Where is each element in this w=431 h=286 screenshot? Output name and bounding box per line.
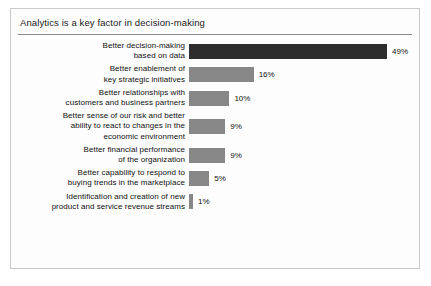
bar-row: Better capability to respond tobuying tr… (11, 168, 421, 188)
bar-category-label: Identification and creation of newproduc… (11, 192, 189, 212)
bar-track: 1% (189, 194, 421, 209)
bar-fill (189, 67, 254, 82)
bar-track: 5% (189, 171, 421, 186)
bar-track: 9% (189, 148, 421, 163)
bar-fill (189, 171, 209, 186)
bar-track: 49% (189, 44, 421, 59)
bar-value-label: 9% (230, 151, 242, 160)
bar-value-label: 49% (392, 47, 408, 56)
bar-value-label: 10% (234, 94, 250, 103)
bar-row: Better relationships withcustomers and b… (11, 88, 421, 108)
bar-track: 10% (189, 91, 421, 106)
bar-category-label: Better financial performanceof the organ… (11, 145, 189, 165)
bar-value-label: 5% (214, 174, 226, 183)
bar-fill (189, 91, 229, 106)
chart-panel: Analytics is a key factor in decision-ma… (10, 8, 420, 269)
bar-track: 16% (189, 67, 421, 82)
bar-category-label: Better capability to respond tobuying tr… (11, 168, 189, 188)
title-divider (18, 34, 412, 35)
bar-fill (189, 194, 193, 209)
bar-value-label: 16% (259, 70, 275, 79)
bar-value-label: 1% (198, 197, 210, 206)
bar-fill (189, 148, 225, 163)
bar-category-label: Better sense of our risk and betterabili… (11, 111, 189, 142)
bar-chart-plot-area: Better decision-makingbased on data49%Be… (11, 41, 421, 267)
bar-category-label: Better enablement ofkey strategic initia… (11, 64, 189, 84)
bar-row: Better decision-makingbased on data49% (11, 41, 421, 61)
bar-fill (189, 44, 387, 59)
bar-row: Better financial performanceof the organ… (11, 145, 421, 165)
bar-category-label: Better relationships withcustomers and b… (11, 88, 189, 108)
bar-value-label: 9% (230, 122, 242, 131)
chart-title: Analytics is a key factor in decision-ma… (20, 17, 205, 28)
bar-row: Better enablement ofkey strategic initia… (11, 64, 421, 84)
bar-track: 9% (189, 119, 421, 134)
bar-category-label: Better decision-makingbased on data (11, 41, 189, 61)
bar-fill (189, 119, 225, 134)
bar-row: Identification and creation of newproduc… (11, 192, 421, 212)
bar-row: Better sense of our risk and betterabili… (11, 111, 421, 142)
